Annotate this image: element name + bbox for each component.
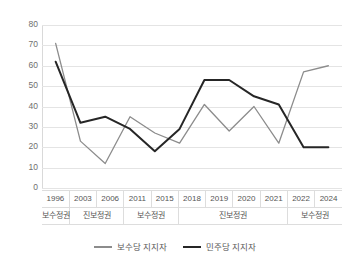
x-axis-year: 1996 [42,191,69,208]
gridline [42,188,342,189]
x-axis-year-row: 1996200320062011201520182019202020212022… [42,191,342,208]
legend-swatch-icon [94,246,112,248]
legend-label: 민주당 지지자 [206,243,256,252]
x-axis-year: 2020 [233,191,260,208]
legend-swatch-icon [183,246,201,248]
line-chart: 80706050403020100 1996200320062011201520… [0,0,350,267]
x-axis-year: 2015 [151,191,178,208]
legend-item[interactable]: 보수당 지지자 [94,243,167,252]
y-axis-tick: 30 [2,122,38,131]
x-axis-group: 진보정권 [178,208,287,225]
x-axis-year: 2021 [260,191,287,208]
x-axis-year: 2022 [287,191,314,208]
x-axis-group: 진보정권 [69,208,124,225]
x-axis-group: 보수정권 [42,208,69,225]
y-axis-tick: 50 [2,81,38,90]
x-axis-group: 보수정권 [287,208,342,225]
x-axis-year: 2006 [97,191,124,208]
y-axis-tick: 60 [2,61,38,70]
series-lines [42,25,342,188]
y-axis-tick-labels: 80706050403020100 [0,0,38,190]
x-axis-year: 2018 [178,191,205,208]
x-axis-year: 2003 [69,191,96,208]
legend-label: 보수당 지지자 [117,243,167,252]
series-line [56,62,329,152]
y-axis-tick: 20 [2,142,38,151]
x-axis-year: 2024 [315,191,342,208]
x-axis-year: 2011 [124,191,151,208]
plot-area [42,25,342,188]
y-axis-tick: 70 [2,40,38,49]
y-axis-tick: 0 [2,183,38,192]
x-axis-group: 보수정권 [124,208,179,225]
x-axis-year: 2019 [206,191,233,208]
x-axis-labels: 1996200320062011201520182019202020212022… [42,190,342,225]
chart-legend: 보수당 지지자민주당 지지자 [0,243,350,252]
y-axis-tick: 80 [2,20,38,29]
y-axis-tick: 10 [2,163,38,172]
y-axis-tick: 40 [2,102,38,111]
legend-item[interactable]: 민주당 지지자 [183,243,256,252]
x-axis-group-row: 보수정권진보정권보수정권진보정권보수정권 [42,208,342,225]
